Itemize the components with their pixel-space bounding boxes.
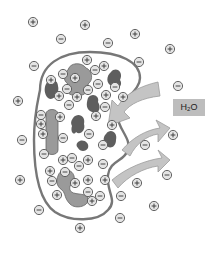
- organelle-dark-4: [71, 115, 84, 133]
- positive-ion-icon: [91, 111, 100, 120]
- negative-ion-icon: [58, 69, 67, 78]
- positive-ion-icon: [101, 90, 110, 99]
- positive-ion-icon: [15, 175, 24, 184]
- positive-ion-icon: [52, 190, 61, 199]
- positive-ion-icon: [75, 223, 84, 232]
- negative-ion-icon: [140, 140, 149, 149]
- h2o-label: H2O: [173, 99, 205, 116]
- positive-ion-icon: [118, 92, 127, 101]
- positive-ion-icon: [82, 55, 91, 64]
- negative-ion-icon: [62, 84, 71, 93]
- positive-ion-icon: [99, 61, 108, 70]
- negative-ion-icon: [56, 34, 65, 43]
- positive-ion-icon: [132, 178, 141, 187]
- negative-ion-icon: [116, 191, 125, 200]
- negative-ion-icon: [39, 149, 48, 158]
- positive-ion-icon: [36, 119, 45, 128]
- positive-ion-icon: [70, 73, 79, 82]
- negative-ion-icon: [83, 85, 92, 94]
- positive-ion-icon: [100, 175, 109, 184]
- cell-osmosis-diagram: H2O: [0, 0, 215, 254]
- negative-ion-icon: [98, 140, 107, 149]
- positive-ion-icon: [107, 120, 116, 129]
- positive-ion-icon: [45, 166, 54, 175]
- negative-ion-icon: [134, 57, 143, 66]
- negative-ion-icon: [83, 187, 92, 196]
- negative-ion-icon: [173, 81, 182, 90]
- negative-ion-icon: [47, 176, 56, 185]
- negative-ion-icon: [67, 153, 76, 162]
- positive-ion-icon: [87, 196, 96, 205]
- positive-ion-icon: [168, 130, 177, 139]
- negative-ion-icon: [162, 170, 171, 179]
- negative-ion-icon: [90, 65, 99, 74]
- negative-ion-icon: [64, 100, 73, 109]
- negative-ion-icon: [29, 61, 38, 70]
- negative-ion-icon: [74, 161, 83, 170]
- positive-ion-icon: [165, 44, 174, 53]
- water-arrow-inward-middle: [122, 120, 170, 156]
- positive-ion-icon: [28, 17, 37, 26]
- positive-ion-icon: [83, 155, 92, 164]
- positive-ion-icon: [54, 91, 63, 100]
- positive-ion-icon: [70, 178, 79, 187]
- positive-ion-icon: [83, 175, 92, 184]
- negative-ion-icon: [58, 133, 67, 142]
- negative-ion-icon: [36, 110, 45, 119]
- positive-ion-icon: [130, 29, 139, 38]
- negative-ion-icon: [93, 79, 102, 88]
- positive-ion-icon: [58, 155, 67, 164]
- negative-ion-icon: [100, 102, 109, 111]
- negative-ion-icon: [34, 205, 43, 214]
- positive-ion-icon: [38, 129, 47, 138]
- positive-ion-icon: [13, 96, 22, 105]
- negative-ion-icon: [17, 135, 26, 144]
- negative-ion-icon: [103, 38, 112, 47]
- negative-ion-icon: [95, 191, 104, 200]
- negative-ion-icon: [84, 129, 93, 138]
- positive-ion-icon: [80, 20, 89, 29]
- positive-ion-icon: [149, 201, 158, 210]
- negative-ion-icon: [98, 159, 107, 168]
- negative-ion-icon: [115, 213, 124, 222]
- positive-ion-icon: [72, 92, 81, 101]
- negative-ion-icon: [110, 82, 119, 91]
- positive-ion-icon: [55, 112, 64, 121]
- positive-ion-icon: [46, 75, 55, 84]
- negative-ion-icon: [60, 167, 69, 176]
